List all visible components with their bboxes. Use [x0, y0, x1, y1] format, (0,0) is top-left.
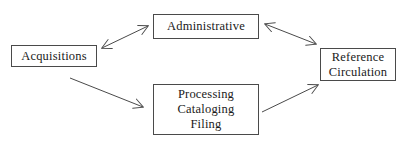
node-administrative-line-1: Administrative	[167, 19, 245, 34]
workflow-diagram: Acquisitions Administrative Processing C…	[0, 0, 411, 159]
node-processing: Processing Cataloging Filing	[153, 84, 259, 135]
node-processing-line-1: Processing	[178, 87, 234, 102]
node-processing-line-3: Filing	[190, 117, 221, 132]
edge-acquisitions-processing	[70, 78, 143, 107]
node-administrative: Administrative	[153, 14, 259, 39]
edge-acquisitions-administrative	[102, 26, 148, 48]
node-acquisitions: Acquisitions	[11, 45, 97, 67]
edge-administrative-reference	[265, 24, 316, 44]
node-acquisitions-line-1: Acquisitions	[21, 49, 87, 64]
node-processing-line-2: Cataloging	[178, 102, 235, 117]
node-reference: Reference Circulation	[320, 48, 396, 81]
node-reference-line-2: Circulation	[329, 65, 387, 80]
node-reference-line-1: Reference	[332, 50, 384, 65]
edge-processing-reference	[262, 85, 318, 112]
